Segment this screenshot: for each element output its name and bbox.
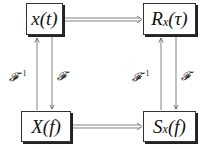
fourier-symbol: 𝓕 (9, 70, 18, 84)
node-r-label: R (151, 8, 163, 30)
node-s-sub: x (163, 122, 168, 137)
node-X-f-label: X(f) (31, 116, 61, 138)
fourier-symbol: 𝓕 (181, 69, 190, 83)
node-r-x-tau: Rx(τ) (143, 3, 196, 35)
fourier-symbol: 𝓕 (57, 69, 66, 83)
inverse-sup: −1 (18, 69, 27, 78)
inverse-sup: −1 (141, 69, 150, 78)
label-left-inverse: 𝓕−1 (9, 69, 27, 85)
node-s-label: S (153, 116, 163, 138)
node-s-rest: (f) (168, 116, 186, 138)
label-left-forward: 𝓕 (57, 69, 66, 84)
node-x-t: x(t) (26, 3, 63, 35)
node-X-f: X(f) (21, 111, 71, 142)
node-x-t-label: x(t) (31, 8, 57, 30)
node-r-rest: (τ) (168, 8, 187, 30)
arrow-bottom-double (73, 123, 142, 130)
node-r-sub: x (163, 15, 168, 30)
arrow-top-double (65, 16, 142, 23)
label-right-forward: 𝓕 (181, 69, 190, 84)
fourier-symbol: 𝓕 (132, 70, 141, 84)
label-right-inverse: 𝓕−1 (132, 69, 150, 85)
node-s-x-f: Sx(f) (143, 111, 196, 142)
